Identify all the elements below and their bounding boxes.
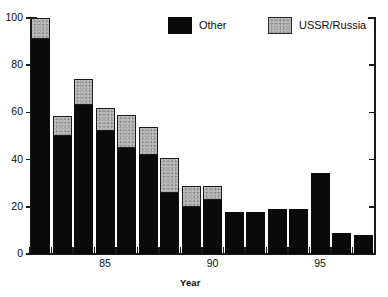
x-tick-mark <box>223 247 225 254</box>
bar-1994 <box>289 209 308 254</box>
bar-segment-ussr-russia <box>139 127 158 155</box>
x-axis-label: 90 <box>207 258 219 269</box>
x-tick-mark <box>201 247 203 254</box>
x-axis-label: 85 <box>99 258 111 269</box>
x-tick-mark <box>51 247 53 254</box>
x-tick-mark <box>115 247 117 254</box>
bar-segment-other <box>53 136 72 254</box>
bar-1984 <box>74 79 93 254</box>
bar-segment-ussr-russia <box>117 115 136 148</box>
bar-1995 <box>311 173 330 254</box>
x-tick-mark <box>158 247 160 254</box>
bar-segment-ussr-russia <box>31 18 50 39</box>
bar-segment-other <box>117 148 136 254</box>
bars-layer <box>31 18 375 254</box>
x-tick-mark <box>309 247 311 254</box>
x-tick-mark <box>94 247 96 254</box>
bar-segment-other <box>182 207 201 254</box>
x-tick-mark <box>266 247 268 254</box>
bar-1993 <box>268 209 287 254</box>
bar-segment-other <box>160 193 179 254</box>
bar-segment-ussr-russia <box>96 108 115 132</box>
bar-segment-ussr-russia <box>160 158 179 192</box>
bar-segment-other <box>246 212 265 254</box>
bar-segment-other <box>311 173 330 254</box>
bar-1987 <box>139 127 158 254</box>
bar-segment-other <box>139 155 158 254</box>
bar-segment-other <box>332 233 351 254</box>
bar-1992 <box>246 212 265 254</box>
bar-1986 <box>117 115 136 254</box>
bar-1997 <box>354 235 373 254</box>
x-tick-mark <box>330 247 332 254</box>
bar-segment-other <box>96 131 115 254</box>
y-axis-label: 60 <box>0 106 23 116</box>
bar-segment-ussr-russia <box>53 116 72 136</box>
x-tick-mark <box>352 247 354 254</box>
y-axis-label: 40 <box>0 154 23 164</box>
x-tick-mark <box>244 247 246 254</box>
bar-1982 <box>31 18 50 254</box>
y-axis-label: 80 <box>0 59 23 69</box>
stacked-bar-chart: Other USSR/Russia 020406080100 859095 Ye… <box>0 0 388 297</box>
x-tick-mark <box>72 247 74 254</box>
y-axis-label: 0 <box>0 248 23 258</box>
bar-1985 <box>96 108 115 254</box>
bar-1996 <box>332 233 351 254</box>
bar-segment-other <box>268 209 287 254</box>
bar-1983 <box>53 116 72 254</box>
bar-segment-other <box>31 39 50 254</box>
bar-segment-ussr-russia <box>203 186 222 200</box>
x-axis-title: Year <box>180 277 200 288</box>
x-tick-mark <box>137 247 139 254</box>
bar-1991 <box>225 212 244 254</box>
bar-segment-other <box>354 235 373 254</box>
bar-segment-other <box>203 200 222 254</box>
bar-1988 <box>160 158 179 254</box>
bar-segment-ussr-russia <box>74 79 93 105</box>
x-tick-mark <box>29 247 31 254</box>
bar-segment-ussr-russia <box>182 186 201 207</box>
bar-segment-other <box>74 105 93 254</box>
y-axis-label: 20 <box>0 201 23 211</box>
x-tick-mark <box>287 247 289 254</box>
y-axis-label: 100 <box>0 12 23 22</box>
bar-1990 <box>203 186 222 254</box>
bar-segment-other <box>225 212 244 254</box>
x-tick-mark <box>180 247 182 254</box>
x-axis-label: 95 <box>314 258 326 269</box>
bar-segment-other <box>289 209 308 254</box>
bar-1989 <box>182 186 201 254</box>
